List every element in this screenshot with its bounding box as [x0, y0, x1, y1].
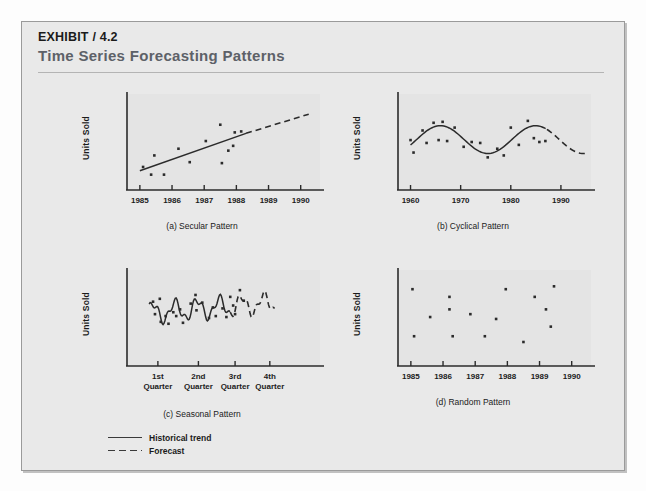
legend: Historical trend Forecast — [108, 431, 298, 457]
x-tick-label: 1970 — [435, 196, 487, 206]
x-tick-label: 1990 — [546, 372, 598, 382]
x-tick-label: 1960 — [385, 196, 437, 206]
chart-b-plot — [386, 90, 598, 212]
header-divider — [38, 72, 604, 73]
chart-d-svg — [386, 266, 598, 388]
chart-a-svg — [115, 90, 327, 212]
legend-label-forecast: Forecast — [149, 446, 184, 456]
chart-panel-random: Units Sold (d) Random Pattern 1985198619… — [348, 266, 598, 426]
exhibit-title: Time Series Forecasting Patterns — [38, 46, 598, 65]
chart-d-ylabel: Units Sold — [352, 292, 362, 336]
chart-d-caption: (d) Random Pattern — [348, 397, 598, 407]
chart-c-plot — [115, 266, 327, 388]
chart-panel-cyclical: Units Sold (b) Cyclical Pattern 19601970… — [348, 90, 598, 240]
x-tick-label: 1990 — [535, 196, 587, 206]
chart-a-plot — [115, 90, 327, 212]
exhibit-frame: EXHIBIT / 4.2 Time Series Forecasting Pa… — [21, 21, 625, 471]
chart-c-svg — [115, 266, 327, 388]
exhibit-header: EXHIBIT / 4.2 Time Series Forecasting Pa… — [38, 30, 598, 65]
chart-panel-seasonal: Units Sold (c) Seasonal Pattern 1st Quar… — [77, 266, 327, 426]
chart-b-caption: (b) Cyclical Pattern — [348, 221, 598, 231]
chart-c-ylabel: Units Sold — [81, 292, 91, 336]
legend-label-historical: Historical trend — [149, 433, 211, 443]
x-tick-label: 1980 — [485, 196, 537, 206]
dashed-line-icon — [108, 446, 142, 456]
chart-b-svg — [386, 90, 598, 212]
legend-item-historical: Historical trend — [108, 431, 298, 444]
chart-d-plot — [386, 266, 598, 388]
chart-a-caption: (a) Secular Pattern — [77, 221, 327, 231]
chart-a-ylabel: Units Sold — [81, 116, 91, 160]
solid-line-icon — [108, 433, 142, 443]
x-tick-label: 4th Quarter — [244, 372, 296, 391]
chart-c-caption: (c) Seasonal Pattern — [77, 409, 327, 419]
chart-panel-secular: Units Sold (a) Secular Pattern 198519861… — [77, 90, 327, 240]
exhibit-kicker: EXHIBIT / 4.2 — [38, 30, 598, 45]
chart-b-ylabel: Units Sold — [352, 116, 362, 160]
x-tick-label: 1990 — [275, 196, 327, 206]
legend-item-forecast: Forecast — [108, 444, 298, 457]
